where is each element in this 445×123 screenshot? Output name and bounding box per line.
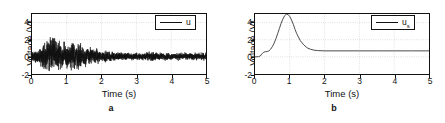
- x-tickmark-b-1: [289, 75, 290, 78]
- x-tick-a-5: 5: [199, 76, 215, 86]
- x-tick-b-5: 5: [422, 76, 438, 86]
- legend-swatch-a: [160, 22, 182, 23]
- legend-a: u: [155, 15, 196, 30]
- y-tick-b-2: 2: [236, 35, 252, 45]
- legend-swatch-b: [376, 22, 398, 23]
- legend-b: us: [371, 15, 415, 30]
- caption-a: a: [0, 103, 222, 113]
- panel-b: Voltage (V) -2024 012345 us Time (s) b: [223, 0, 445, 123]
- x-tickmark-a-2: [101, 75, 102, 78]
- x-tickmark-a-3: [137, 75, 138, 78]
- x-axis-label-a: Time (s): [30, 88, 208, 99]
- y-tick-b-3: 4: [236, 17, 252, 27]
- y-tick-a-2: 2: [13, 35, 29, 45]
- x-tickmark-b-2: [324, 75, 325, 78]
- x-tickmark-a-1: [66, 75, 67, 78]
- y-tick-b-1: 0: [236, 52, 252, 62]
- x-tickmark-a-4: [172, 75, 173, 78]
- legend-label-b: us: [402, 18, 410, 27]
- y-tick-a-1: 0: [13, 52, 29, 62]
- x-tickmark-b-0: [254, 75, 255, 78]
- figure-root: Voltage (V) -2024 012345 u Time (s) a Vo…: [0, 0, 445, 123]
- y-tick-a-3: 4: [13, 17, 29, 27]
- x-tickmark-b-5: [429, 75, 430, 78]
- caption-b: b: [223, 103, 445, 113]
- x-tickmark-a-5: [206, 75, 207, 78]
- legend-label-a: u: [186, 18, 191, 27]
- panel-a: Voltage (V) -2024 012345 u Time (s) a: [0, 0, 222, 123]
- x-tickmark-b-3: [360, 75, 361, 78]
- x-tickmark-b-4: [395, 75, 396, 78]
- legend-subscript: s: [407, 23, 410, 29]
- x-tickmark-a-0: [31, 75, 32, 78]
- x-axis-label-b: Time (s): [253, 88, 431, 99]
- signal-noise-trace: [32, 37, 206, 71]
